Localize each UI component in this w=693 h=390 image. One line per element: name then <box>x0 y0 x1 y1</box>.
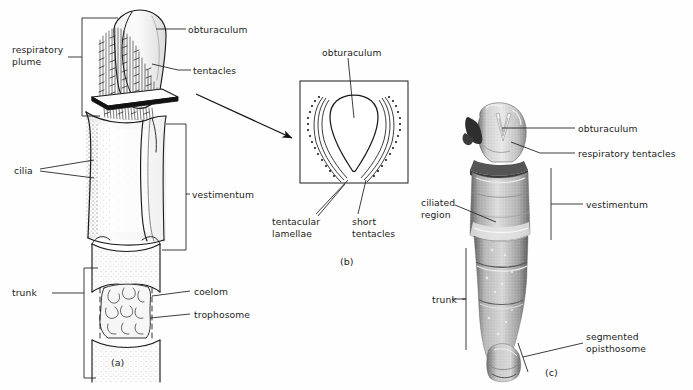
photo-opisthosome-c <box>487 343 521 381</box>
label-obturaculum-a: obturaculum <box>188 24 248 36</box>
label-vestimentum-a: vestimentum <box>192 189 254 201</box>
label-coelom-a: coelom <box>194 286 228 298</box>
photo-vestimentum-c <box>470 172 530 241</box>
label-tentacles-a: tentacles <box>193 65 236 77</box>
panel-a-drawing <box>86 10 178 382</box>
cut-plate-a <box>92 89 178 110</box>
label-obturaculum-b: obturaculum <box>322 47 382 59</box>
leader-trophosome-a <box>150 314 190 318</box>
label-respiratory-plume: respiratoryplume <box>12 44 63 67</box>
arrow-a-to-b <box>196 94 292 138</box>
panel-caption-b: (b) <box>340 256 353 267</box>
leader-tentacular-lamellae-1 <box>316 180 348 214</box>
panel-caption-c: (c) <box>545 367 558 378</box>
leader-coelom-a <box>152 291 190 296</box>
leader-short-tentacles-b <box>358 180 366 214</box>
label-respiratory-tentacles-c: respiratory tentacles <box>578 148 676 160</box>
label-tentacular-lamellae: tentacularlamellae <box>272 216 320 239</box>
label-obturaculum-c: obturaculum <box>578 123 638 135</box>
trophosome-cutaway-a <box>92 284 160 338</box>
vestimentum-shape-a <box>86 112 166 245</box>
label-trunk-c: trunk <box>432 294 457 306</box>
label-ciliated-region-c: ciliatedregion <box>421 197 455 220</box>
leader-cilia-2 <box>40 171 94 178</box>
leader-opisthosome-c <box>523 343 583 357</box>
label-cilia-a: cilia <box>14 165 33 177</box>
label-segmented-opisthosome-c: segmentedopisthosome <box>586 331 646 354</box>
panel-c-photograph <box>463 103 530 382</box>
label-short-tentacles: shorttentacles <box>352 216 395 239</box>
panel-b-drawing <box>300 81 408 183</box>
trunk-lower-a <box>92 340 160 382</box>
panel-caption-a: (a) <box>111 357 124 368</box>
photo-head-c <box>463 103 527 162</box>
label-trophosome-a: trophosome <box>194 309 250 321</box>
label-vestimentum-c: vestimentum <box>586 199 648 211</box>
anatomy-figure: respiratoryplume cilia trunk obturaculum… <box>0 0 693 390</box>
leader-tentacular-lamellae-2 <box>318 184 345 216</box>
label-trunk-a: trunk <box>12 287 37 299</box>
leader-cilia-1 <box>40 160 94 169</box>
